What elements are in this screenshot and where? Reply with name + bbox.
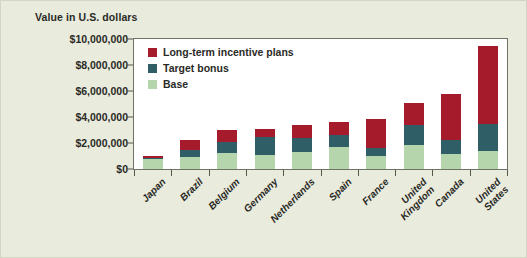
bar-segment-lti[interactable]	[366, 119, 386, 148]
bar-stack	[180, 140, 200, 169]
x-axis-label: Brazil	[178, 176, 205, 203]
y-tick-mark	[126, 65, 133, 66]
y-tick-label: $10,000,000	[70, 33, 128, 45]
bar-segment-target-bonus[interactable]	[217, 142, 237, 153]
x-axis-labels: JapanBrazilBelgiumGermanyNetherlandsSpai…	[134, 176, 507, 256]
x-axis-label: Canada	[433, 176, 466, 209]
bar-stack	[441, 94, 461, 169]
x-axis-label: Belgium	[206, 176, 242, 212]
bar-segment-base[interactable]	[329, 147, 349, 169]
bar-segment-lti[interactable]	[478, 46, 498, 125]
bar-segment-target-bonus[interactable]	[404, 125, 424, 145]
bar-stack	[404, 103, 424, 169]
bar-segment-target-bonus[interactable]	[478, 124, 498, 151]
bar-segment-base[interactable]	[217, 153, 237, 169]
bar-segment-lti[interactable]	[441, 94, 461, 140]
bar-segment-target-bonus[interactable]	[441, 140, 461, 154]
y-tick-mark	[126, 143, 133, 144]
bar-stack	[143, 156, 163, 169]
bar-segment-base[interactable]	[180, 157, 200, 169]
chart-figure: Value in U.S. dollars Long-term incentiv…	[0, 0, 527, 258]
y-tick-label: $6,000,000	[75, 85, 128, 97]
bar-segment-lti[interactable]	[404, 103, 424, 124]
bar-segment-target-bonus[interactable]	[255, 137, 275, 155]
bar-segment-base[interactable]	[478, 151, 498, 169]
bar-segment-base[interactable]	[404, 145, 424, 169]
y-tick-mark	[126, 39, 133, 40]
bar-segment-base[interactable]	[255, 155, 275, 169]
y-tick-label: $4,000,000	[75, 111, 128, 123]
bar-segment-lti[interactable]	[329, 122, 349, 136]
bar-segment-lti[interactable]	[292, 125, 312, 138]
x-axis-label: Germany	[241, 176, 279, 214]
bar-stack	[478, 46, 498, 169]
y-tick-label: $8,000,000	[75, 59, 128, 71]
bar-segment-base[interactable]	[366, 156, 386, 169]
y-tick-mark	[126, 169, 133, 170]
bar-segment-lti[interactable]	[180, 140, 200, 149]
bar-segment-target-bonus[interactable]	[366, 148, 386, 156]
y-tick-mark	[126, 117, 133, 118]
bar-segment-lti[interactable]	[217, 130, 237, 142]
x-tick-mark	[507, 170, 508, 176]
y-axis-title: Value in U.S. dollars	[35, 11, 137, 23]
bar-stack	[217, 130, 237, 169]
bar-segment-base[interactable]	[441, 154, 461, 169]
bar-stack	[255, 129, 275, 169]
bar-segment-lti[interactable]	[255, 129, 275, 137]
bar-stack	[329, 122, 349, 169]
bar-segment-target-bonus[interactable]	[292, 138, 312, 152]
bar-stack	[292, 125, 312, 169]
bar-segment-target-bonus[interactable]	[329, 135, 349, 147]
bar-segment-base[interactable]	[143, 159, 163, 169]
bar-segment-base[interactable]	[292, 152, 312, 169]
x-axis-label: Japan	[139, 176, 167, 204]
bar-stack	[366, 119, 386, 169]
y-tick-label: $2,000,000	[75, 137, 128, 149]
y-tick-mark	[126, 91, 133, 92]
x-axis-label: France	[360, 176, 391, 207]
x-axis-label: Spain	[327, 176, 354, 203]
bar-segment-target-bonus[interactable]	[180, 150, 200, 157]
bars-layer	[134, 39, 507, 169]
